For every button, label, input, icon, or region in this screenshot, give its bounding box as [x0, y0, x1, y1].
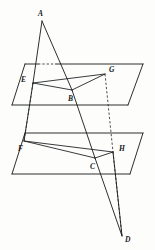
segment-E-to-B	[33, 83, 72, 90]
segment-F-to-C	[24, 141, 95, 158]
vertex-label-E: E	[21, 76, 26, 84]
segment-C-to-H	[95, 152, 113, 158]
upper-plane-right-edge	[128, 64, 143, 105]
vertex-label-D: D	[125, 236, 131, 244]
vertex-label-H: H	[119, 145, 125, 153]
vertex-label-F: F	[18, 145, 23, 153]
vertex-label-C: C	[90, 163, 95, 171]
upper-plane-left-edge	[12, 64, 25, 105]
hidden-segment-G-H	[105, 74, 113, 152]
lower-plane-right-edge	[130, 133, 143, 174]
vertex-label-G: G	[109, 66, 115, 74]
upper-plane	[12, 64, 143, 105]
segment-H-to-F	[24, 141, 113, 152]
geometry-figure: A B C D E F G H	[0, 0, 155, 250]
lower-plane-left-edge	[12, 133, 25, 174]
vertex-label-A: A	[38, 10, 43, 18]
segment-A-to-E	[33, 21, 42, 83]
rays-from-apex	[24, 21, 122, 236]
geometry-diagram	[0, 0, 155, 250]
segment-B-to-C	[72, 90, 95, 158]
triangle-FCH	[24, 141, 113, 158]
vertex-label-B: B	[68, 95, 73, 103]
segment-G-to-E	[33, 74, 105, 83]
